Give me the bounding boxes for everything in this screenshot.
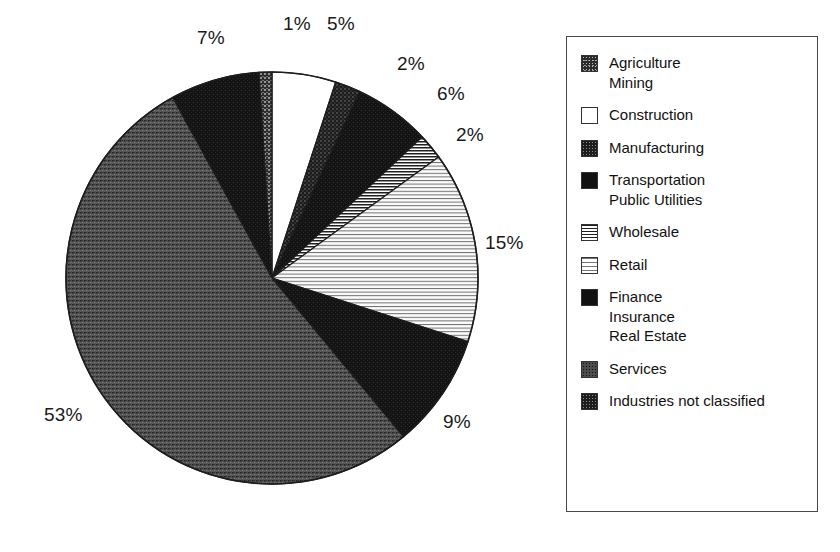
legend-item[interactable]: Retail xyxy=(581,255,811,275)
legend-item-list: AgricultureMiningConstructionManufacturi… xyxy=(581,53,811,424)
pie-label-transportation-public-utilities: 6% xyxy=(437,84,465,103)
legend-item-label: AgricultureMining xyxy=(609,53,681,92)
legend-item-label-line: Mining xyxy=(609,73,681,93)
pie-label-finance-insurance-real-estate: 9% xyxy=(443,412,471,431)
legend-item-label-line: Retail xyxy=(609,255,647,275)
pie-label-services: 53% xyxy=(44,405,83,424)
legend-item-label: FinanceInsuranceReal Estate xyxy=(609,287,687,346)
pie-slice-group xyxy=(66,72,478,484)
legend-item[interactable]: TransportationPublic Utilities xyxy=(581,170,811,209)
legend-swatch-icon xyxy=(581,257,598,274)
pie-label-construction: 5% xyxy=(327,14,355,33)
pie-label-manufacturing: 2% xyxy=(397,54,425,73)
legend-item-label-line: Services xyxy=(609,359,667,379)
legend-box: AgricultureMiningConstructionManufacturi… xyxy=(566,36,818,512)
legend-item-label: Construction xyxy=(609,105,693,125)
legend-item[interactable]: Manufacturing xyxy=(581,138,811,158)
pie-chart-page: 7% 1% 5% 2% 6% 2% 15% 9% 53% Agriculture… xyxy=(0,0,840,552)
legend-swatch-icon xyxy=(581,361,598,378)
legend-item-label-line: Construction xyxy=(609,105,693,125)
legend-item-label-line: Transportation xyxy=(609,170,705,190)
pie-chart-area xyxy=(0,0,560,552)
legend-swatch-icon xyxy=(581,393,598,410)
pie-label-industries-not-classified: 7% xyxy=(197,28,225,47)
legend-item-label-line: Agriculture xyxy=(609,53,681,73)
legend-item-label-line: Finance xyxy=(609,287,687,307)
pie-label-retail: 15% xyxy=(485,233,524,252)
legend-item-label-line: Industries not classified xyxy=(609,391,765,411)
legend-swatch-icon xyxy=(581,172,598,189)
legend-swatch-icon xyxy=(581,224,598,241)
pie-label-agriculture-mining: 1% xyxy=(283,14,311,33)
legend-item-label: Retail xyxy=(609,255,647,275)
legend-item[interactable]: FinanceInsuranceReal Estate xyxy=(581,287,811,346)
legend-swatch-icon xyxy=(581,55,598,72)
legend-swatch-icon xyxy=(581,140,598,157)
legend-item-label: Manufacturing xyxy=(609,138,704,158)
legend-item-label-line: Insurance xyxy=(609,307,687,327)
legend-item[interactable]: Wholesale xyxy=(581,222,811,242)
legend-swatch-icon xyxy=(581,107,598,124)
pie-chart-svg xyxy=(0,0,560,552)
legend-swatch-icon xyxy=(581,289,598,306)
legend-item-label: Industries not classified xyxy=(609,391,765,411)
legend-item[interactable]: Construction xyxy=(581,105,811,125)
legend-item-label: TransportationPublic Utilities xyxy=(609,170,705,209)
legend-item-label-line: Manufacturing xyxy=(609,138,704,158)
legend-item-label-line: Public Utilities xyxy=(609,190,705,210)
pie-label-wholesale: 2% xyxy=(456,125,484,144)
legend-item[interactable]: AgricultureMining xyxy=(581,53,811,92)
legend-item[interactable]: Services xyxy=(581,359,811,379)
legend-item-label-line: Wholesale xyxy=(609,222,679,242)
legend-item-label: Wholesale xyxy=(609,222,679,242)
legend-item[interactable]: Industries not classified xyxy=(581,391,811,411)
legend-item-label: Services xyxy=(609,359,667,379)
legend-item-label-line: Real Estate xyxy=(609,326,687,346)
